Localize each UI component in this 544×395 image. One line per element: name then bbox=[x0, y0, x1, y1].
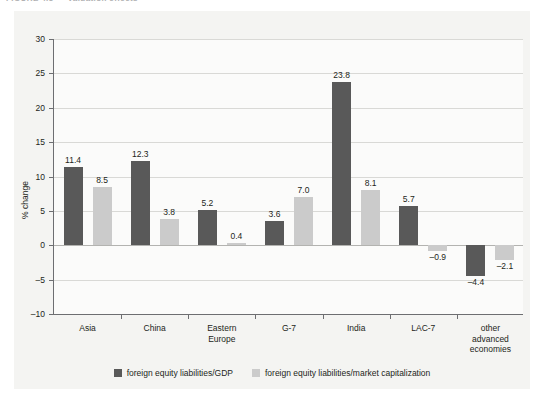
bar-value-label: 3.6 bbox=[253, 209, 297, 219]
y-tick-label--5: –5 bbox=[36, 275, 45, 285]
x-tick bbox=[457, 314, 458, 319]
chart-panel: % change 302520151050–5–1011.48.5Asia12.… bbox=[14, 11, 530, 389]
bar-group-eastern-europe: 5.20.4EasternEurope bbox=[188, 39, 255, 314]
figure-number: FIGURE 4.5 bbox=[6, 0, 54, 3]
y-tick-label-20: 20 bbox=[36, 103, 45, 113]
x-axis-label-china: China bbox=[118, 323, 192, 334]
y-tick-label--10: –10 bbox=[31, 309, 45, 319]
bar[interactable] bbox=[131, 161, 150, 246]
bar-value-label: 12.3 bbox=[118, 149, 162, 159]
bar-group-asia: 11.48.5Asia bbox=[54, 39, 121, 314]
legend-swatch-icon-dark bbox=[114, 369, 122, 377]
bar[interactable] bbox=[495, 245, 514, 259]
bar-value-label: –4.4 bbox=[454, 277, 498, 287]
bar-group-lac-7: 5.7–0.9LAC-7 bbox=[390, 39, 457, 314]
x-axis-label-india: India bbox=[319, 323, 393, 334]
bar-group-china: 12.33.8China bbox=[121, 39, 188, 314]
bar-value-label: 5.2 bbox=[185, 198, 229, 208]
x-tick bbox=[390, 314, 391, 319]
figure-heading: FIGURE 4.5Valuation effects bbox=[6, 0, 138, 4]
y-tick-label-5: 5 bbox=[40, 206, 45, 216]
bar[interactable] bbox=[332, 82, 351, 246]
bar[interactable] bbox=[294, 197, 313, 245]
bar-value-label: 3.8 bbox=[147, 207, 191, 217]
bar[interactable] bbox=[428, 245, 447, 251]
legend-swatch-icon-light bbox=[252, 369, 260, 377]
bar-value-label: 8.1 bbox=[349, 178, 393, 188]
bar[interactable] bbox=[361, 190, 380, 246]
bar-group-g-7: 3.67.0G-7 bbox=[255, 39, 322, 314]
chart-legend: foreign equity liabilities/GDP foreign e… bbox=[14, 368, 530, 378]
bar[interactable] bbox=[160, 219, 179, 245]
bar[interactable] bbox=[399, 206, 418, 245]
legend-label-dark: foreign equity liabilities/GDP bbox=[127, 368, 233, 378]
x-axis-label-asia: Asia bbox=[51, 323, 125, 334]
plot-area: 302520151050–5–1011.48.5Asia12.33.8China… bbox=[53, 39, 523, 315]
y-tick-label-30: 30 bbox=[36, 34, 45, 44]
bar-value-label: 11.4 bbox=[51, 155, 95, 165]
bar[interactable] bbox=[93, 187, 112, 245]
legend-item-foreign-equity-liabilities-gdp: foreign equity liabilities/GDP bbox=[114, 368, 233, 378]
y-tick-label-10: 10 bbox=[36, 172, 45, 182]
bar-value-label: –0.9 bbox=[416, 252, 460, 262]
figure-title: Valuation effects bbox=[68, 0, 138, 3]
bar-value-label: 0.4 bbox=[214, 231, 258, 241]
x-tick bbox=[188, 314, 189, 319]
y-tick-label-0: 0 bbox=[40, 240, 45, 250]
bar-group-india: 23.88.1India bbox=[323, 39, 390, 314]
x-axis-label-lac-7: LAC-7 bbox=[386, 323, 460, 334]
x-axis-label-other-advanced-economies: otheradvancedeconomies bbox=[453, 323, 527, 355]
bar-value-label: 7.0 bbox=[281, 185, 325, 195]
y-tick-label-15: 15 bbox=[36, 137, 45, 147]
bar-value-label: 23.8 bbox=[320, 70, 364, 80]
y-tick-label-25: 25 bbox=[36, 68, 45, 78]
y-tick--10 bbox=[49, 314, 54, 315]
bar-value-label: 8.5 bbox=[80, 175, 124, 185]
bar-group-other-advanced-economies: –4.4–2.1otheradvancedeconomies bbox=[457, 39, 524, 314]
x-axis-label-g-7: G-7 bbox=[252, 323, 326, 334]
x-tick bbox=[255, 314, 256, 319]
x-tick bbox=[323, 314, 324, 319]
legend-label-light: foreign equity liabilities/market capita… bbox=[265, 368, 430, 378]
x-axis-label-eastern-europe: EasternEurope bbox=[185, 323, 259, 344]
legend-item-foreign-equity-liabilities-market-cap: foreign equity liabilities/market capita… bbox=[252, 368, 430, 378]
bar[interactable] bbox=[227, 243, 246, 246]
x-tick bbox=[121, 314, 122, 319]
bar-value-label: 5.7 bbox=[387, 194, 431, 204]
bar[interactable] bbox=[265, 221, 284, 246]
y-axis-title: % change bbox=[20, 181, 30, 219]
bar-value-label: –2.1 bbox=[483, 261, 527, 271]
